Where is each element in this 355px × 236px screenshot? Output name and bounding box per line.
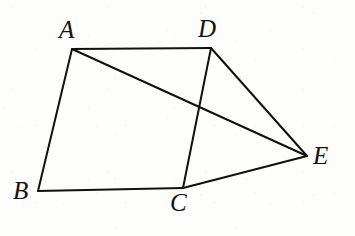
segment-ad xyxy=(72,48,211,49)
vertex-label-c: C xyxy=(170,190,187,215)
segment-ae-diagonal xyxy=(72,49,307,156)
vertex-label-d: D xyxy=(198,16,216,41)
segment-ab xyxy=(38,49,72,191)
segment-dc xyxy=(183,48,211,188)
segment-bc xyxy=(38,188,183,191)
segment-ce xyxy=(183,156,307,188)
vertex-label-e: E xyxy=(313,143,328,168)
vertex-label-b: B xyxy=(13,178,28,203)
edges-group xyxy=(38,48,307,191)
segment-de xyxy=(211,48,307,156)
vertex-label-a: A xyxy=(59,17,74,42)
geometry-figure: ABCDE xyxy=(0,0,355,236)
